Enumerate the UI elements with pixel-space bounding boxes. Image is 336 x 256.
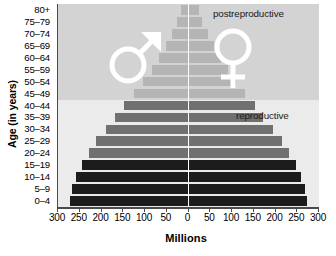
y-axis-tick-label: 10–14 — [24, 171, 50, 183]
bar-male — [96, 136, 188, 146]
x-axis-tick-label: 150 — [245, 212, 261, 223]
x-axis-tick-label: 250 — [71, 212, 87, 223]
x-axis-tick-label: 200 — [92, 212, 108, 223]
bar-male — [166, 41, 189, 51]
y-axis-tick-label: 65–69 — [24, 40, 50, 52]
x-axis-tick-label: 200 — [266, 212, 282, 223]
bar-male — [159, 53, 189, 63]
x-axis-tick — [231, 207, 232, 212]
bar-male — [134, 89, 188, 99]
postreproductive-label: postreproductive — [213, 8, 284, 19]
bar-female — [189, 125, 273, 135]
bar-male — [177, 17, 188, 27]
x-axis-tick-label: 50 — [204, 212, 215, 223]
x-axis-tick — [101, 207, 102, 212]
x-axis-tick — [144, 207, 145, 212]
bar-female — [189, 160, 296, 170]
bar-female — [189, 41, 214, 51]
y-axis-tick-label: 55–59 — [24, 64, 50, 76]
x-axis-tick — [79, 207, 80, 212]
bar-female — [189, 148, 289, 158]
x-axis-tick-labels: 30025020015010050050100150200250300 — [0, 212, 336, 226]
y-axis-tick-label: 0–4 — [35, 195, 50, 207]
y-axis-tick-label: 15–19 — [24, 159, 50, 171]
y-axis-tick-labels: 80+75–7970–7465–6960–6455–5950–5445–4940… — [0, 4, 52, 207]
x-axis-tick — [122, 207, 123, 212]
x-axis-tick-label: 0 — [185, 212, 190, 223]
bar-male — [143, 77, 188, 87]
y-axis-tick-label: 80+ — [34, 4, 50, 16]
y-axis-tick-label: 25–29 — [24, 135, 50, 147]
y-axis-tick-label: 35–39 — [24, 111, 50, 123]
bar-female — [189, 17, 203, 27]
y-axis-tick-label: 75–79 — [24, 16, 50, 28]
bar-male — [152, 65, 189, 75]
x-axis-tick-label: 150 — [114, 212, 130, 223]
bar-female — [189, 136, 282, 146]
x-axis-tick-label: 100 — [136, 212, 152, 223]
x-axis-tick — [318, 207, 319, 212]
bar-female — [189, 77, 237, 87]
x-axis-tick-label: 300 — [49, 212, 65, 223]
bar-male — [82, 160, 189, 170]
bar-male — [72, 184, 189, 194]
bar-male — [172, 29, 189, 39]
x-axis-tick-label: 300 — [310, 212, 326, 223]
x-axis-tick — [188, 207, 189, 212]
x-axis-title: Millions — [0, 232, 336, 244]
bar-female — [189, 5, 199, 15]
y-axis-tick-label: 60–64 — [24, 52, 50, 64]
bar-male — [115, 113, 188, 123]
bar-female — [189, 29, 208, 39]
x-axis-tick-label: 50 — [160, 212, 171, 223]
bar-female — [189, 101, 255, 111]
plot-area — [57, 4, 319, 207]
y-axis-tick-label: 70–74 — [24, 28, 50, 40]
y-axis-tick-label: 5–9 — [35, 183, 50, 195]
bar-female — [189, 172, 301, 182]
reproductive-label: reproductive — [236, 110, 289, 121]
bar-male — [106, 125, 189, 135]
x-axis-tick-label: 100 — [223, 212, 239, 223]
x-axis-tick-label: 250 — [288, 212, 304, 223]
bar-female — [189, 196, 307, 206]
x-axis-tick — [57, 207, 58, 212]
bar-female — [189, 89, 246, 99]
center-axis-line — [188, 4, 189, 207]
x-axis-tick — [296, 207, 297, 212]
bar-female — [189, 184, 306, 194]
y-axis-tick-label: 30–34 — [24, 123, 50, 135]
y-axis-tick-label: 50–54 — [24, 76, 50, 88]
bar-male — [124, 101, 188, 111]
x-axis-tick — [253, 207, 254, 212]
population-pyramid-chart: Age (in years) 80+75–7970–7465–6960–6455… — [0, 0, 336, 256]
x-axis-tick — [275, 207, 276, 212]
bar-male — [70, 196, 188, 206]
y-axis-tick-label: 45–49 — [24, 88, 50, 100]
y-axis-tick-label: 40–44 — [24, 100, 50, 112]
x-axis-tick — [209, 207, 210, 212]
bar-male — [89, 148, 188, 158]
x-axis-tick — [166, 207, 167, 212]
y-axis-tick-label: 20–24 — [24, 147, 50, 159]
bar-female — [189, 65, 228, 75]
bar-female — [189, 53, 221, 63]
bar-male — [76, 172, 188, 182]
